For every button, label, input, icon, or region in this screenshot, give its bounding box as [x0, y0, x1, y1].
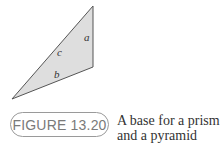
side-label-c: c [57, 46, 62, 58]
figure-number-badge: FIGURE 13.20 [10, 112, 109, 137]
caption-line-1: A base for a prism [117, 113, 220, 128]
figure-caption: A base for a prism and a pyramid [117, 113, 220, 143]
triangle-base [12, 6, 93, 99]
caption-line-2: and a pyramid [117, 128, 220, 143]
side-label-a: a [84, 31, 90, 43]
triangle-diagram: a c b [0, 0, 223, 110]
side-label-b: b [54, 68, 60, 80]
